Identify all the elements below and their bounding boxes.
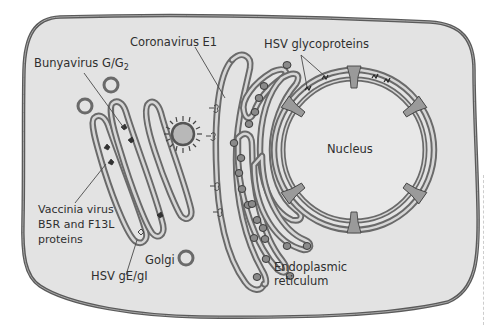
label-hsv-glycoproteins: HSV glycoproteins bbox=[264, 37, 369, 51]
cell-diagram: Coronavirus E1 Bunyavirus G/G2 HSV glyco… bbox=[0, 0, 489, 334]
label-coronavirus-e1: Coronavirus E1 bbox=[130, 35, 217, 49]
label-hsv-ge-gi: HSV gE/gI bbox=[91, 269, 148, 283]
label-endoplasmic: Endoplasmic bbox=[274, 260, 347, 274]
label-reticulum: reticulum bbox=[274, 274, 329, 288]
page-edge-artifact bbox=[483, 175, 486, 325]
label-nucleus: Nucleus bbox=[327, 142, 373, 156]
label-bunyavirus: Bunyavirus G/G2 bbox=[34, 56, 129, 72]
label-golgi: Golgi bbox=[145, 253, 175, 267]
label-vaccinia-line3: proteins bbox=[38, 233, 83, 246]
label-vaccinia-line1: Vaccinia virus bbox=[38, 203, 114, 216]
label-vaccinia-line2: B5R and F13L bbox=[38, 218, 115, 231]
